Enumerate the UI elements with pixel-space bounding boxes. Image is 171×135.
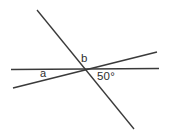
angle-label-b: b bbox=[81, 53, 87, 65]
geometry-figure: a b 50° bbox=[0, 0, 171, 135]
angle-label-a: a bbox=[40, 68, 46, 79]
angle-label-50-degrees: 50° bbox=[97, 71, 115, 83]
figure-svg bbox=[0, 0, 171, 135]
